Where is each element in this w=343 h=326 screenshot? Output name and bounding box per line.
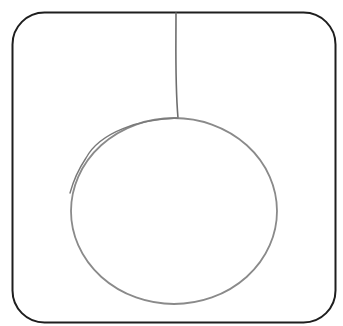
hanging-string <box>176 13 178 118</box>
ornament-circle <box>71 118 277 304</box>
rounded-frame <box>13 13 336 323</box>
sketch-canvas <box>0 0 343 326</box>
